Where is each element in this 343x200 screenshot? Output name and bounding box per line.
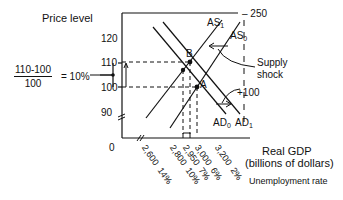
- point-a-label: A: [200, 80, 207, 90]
- fraction-denominator: 100: [14, 77, 52, 89]
- as1-label: AS1: [207, 18, 224, 29]
- x-axis-units: (billions of dollars): [245, 158, 334, 169]
- inflation-result: = 10%: [61, 71, 90, 82]
- as0-label: AS0: [230, 31, 247, 42]
- inflation-fraction: 110-100 100: [14, 64, 52, 89]
- y-tick-120: 120: [101, 34, 118, 44]
- point-b: [188, 60, 193, 65]
- y-tick-110: 110: [101, 58, 117, 68]
- supply-shock-label-2: shock: [257, 70, 283, 80]
- x-axis-label: Real GDP: [262, 146, 312, 157]
- y-tick-90: 90: [101, 108, 112, 118]
- top-value-label: – 250: [242, 9, 267, 19]
- point-intermediate: [181, 68, 185, 72]
- unemployment-label: Unemployment rate: [249, 177, 328, 186]
- diagram-canvas: [0, 0, 343, 200]
- point-b-label: B: [186, 49, 193, 59]
- fraction-numerator: 110-100: [14, 64, 52, 77]
- supply-shock-label-1: Supply: [257, 58, 288, 68]
- bottom-value-label: +100: [237, 88, 260, 98]
- y-tick-100: 100: [101, 83, 118, 93]
- point-a: [195, 85, 200, 90]
- y-axis-label: Price level: [42, 13, 93, 24]
- ad0-label: AD0: [213, 118, 231, 129]
- x-origin-label: 0: [109, 143, 115, 153]
- ad1-label: AD1: [235, 118, 253, 129]
- ad1-curve: [163, 22, 240, 114]
